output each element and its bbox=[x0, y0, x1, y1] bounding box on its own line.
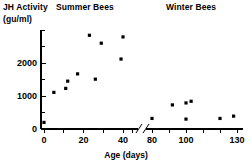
x-tick-label-right: 80 bbox=[147, 135, 157, 145]
data-point bbox=[100, 42, 103, 45]
data-point bbox=[94, 78, 97, 81]
data-point bbox=[232, 115, 235, 118]
x-tick-label-left: 0 bbox=[41, 135, 46, 145]
x-tick-label-left: 20 bbox=[78, 135, 88, 145]
data-point bbox=[218, 117, 221, 120]
y-tick-label: 2000 bbox=[17, 58, 37, 68]
data-point bbox=[121, 35, 124, 38]
x-tick-label-right: 100 bbox=[178, 135, 193, 145]
figure-container: JH Activity (gu/ml) Summer Bees Winter B… bbox=[0, 0, 252, 165]
data-point bbox=[66, 80, 69, 83]
data-point bbox=[64, 87, 67, 90]
data-point bbox=[150, 117, 153, 120]
data-point bbox=[184, 118, 187, 121]
data-point bbox=[190, 100, 193, 103]
x-axis-label: Age (days) bbox=[0, 150, 252, 160]
data-point bbox=[184, 101, 187, 104]
y-tick-label: 0 bbox=[32, 124, 37, 134]
data-point bbox=[52, 91, 55, 94]
data-point bbox=[42, 121, 45, 124]
x-tick-label-left: 40 bbox=[118, 135, 128, 145]
tick-marks-group bbox=[41, 30, 237, 133]
data-points-group bbox=[42, 34, 235, 124]
scatter-plot: 0100020000204080100130 bbox=[0, 0, 252, 165]
data-point bbox=[76, 72, 79, 75]
data-point bbox=[88, 34, 91, 37]
data-point bbox=[119, 57, 122, 60]
y-tick-label: 1000 bbox=[17, 91, 37, 101]
x-tick-label-right: 130 bbox=[229, 135, 244, 145]
tick-labels-group: 0100020000204080100130 bbox=[17, 58, 245, 145]
data-point bbox=[171, 103, 174, 106]
axes-group bbox=[41, 30, 243, 133]
